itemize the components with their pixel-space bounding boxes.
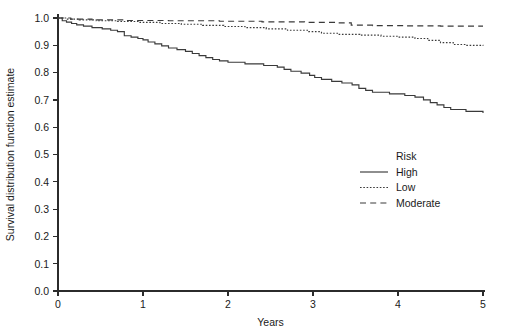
y-tick-label: 0.5 [34,148,49,160]
y-tick-label: 0.1 [34,258,49,270]
y-tick-label: 0.6 [34,121,49,133]
y-axis-ticks: 0.00.10.20.30.40.50.60.70.80.91.0 [34,12,58,297]
y-tick-label: 0.3 [34,203,49,215]
x-tick-label: 0 [55,298,61,310]
curve-high [58,18,483,113]
curve-group [58,18,483,113]
chart-legend: RiskHighLowModerate [360,150,441,209]
legend-label-high: High [396,166,418,178]
legend-label-moderate: Moderate [396,197,441,209]
y-axis-title: Survival distribution function estimate [4,68,16,241]
x-tick-label: 3 [310,298,316,310]
y-tick-label: 0.2 [34,230,49,242]
y-tick-label: 0.0 [34,285,49,297]
legend-label-low: Low [396,181,416,193]
x-axis-title: Years [257,316,283,328]
x-tick-label: 4 [395,298,401,310]
legend-title: Risk [396,150,417,162]
x-tick-label: 2 [225,298,231,310]
y-tick-label: 0.7 [34,94,49,106]
x-axis-ticks: 012345 [55,291,486,310]
y-tick-label: 1.0 [34,12,49,24]
x-tick-label: 1 [140,298,146,310]
x-tick-label: 5 [480,298,486,310]
y-tick-label: 0.4 [34,176,49,188]
y-tick-label: 0.9 [34,39,49,51]
chart-canvas: 0.00.10.20.30.40.50.60.70.80.91.0 012345… [0,0,512,329]
survival-curve-chart: 0.00.10.20.30.40.50.60.70.80.91.0 012345… [0,0,512,329]
y-tick-label: 0.8 [34,66,49,78]
